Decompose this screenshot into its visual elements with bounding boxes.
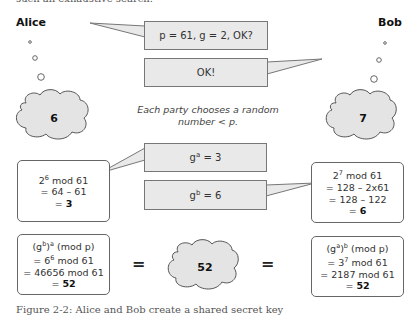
thought-bubble-icon [384,42,387,45]
note-line: number < p. [120,116,296,128]
message-gb: gb = 6 [144,180,267,210]
equals-sign: = [261,254,274,273]
message-params: p = 61, g = 2, OK? [144,21,268,50]
message-text: OK! [197,67,215,78]
alice-secret: 6 [20,100,88,136]
bob-secret: 7 [330,100,396,136]
note-line: Each party chooses a random [120,104,296,116]
bob-calculation: 27 mod 61 = 128 – 2x61 = 128 – 122 = 6 [311,162,404,223]
message-ok: OK! [144,58,268,87]
thought-bubble-icon [38,74,45,81]
speech-pointer-bob [267,59,322,74]
thought-bubble-icon [33,56,38,61]
thought-bubble-icon [377,58,382,63]
message-text: ga = 3 [190,151,222,163]
speech-pointer-alice [90,23,145,37]
message-text: gb = 6 [190,189,222,201]
message-ga: ga = 3 [144,143,267,172]
equals-sign: = [132,254,145,273]
thought-bubble-icon [371,76,378,83]
random-number-note: Each party chooses a random number < p. [120,104,296,128]
alice-calculation: 26 mod 61 = 64 – 61 = 3 [17,160,110,222]
thought-bubble-icon [29,41,32,44]
alice-final-calculation: (gb)a (mod p) = 66 mod 61 = 46656 mod 61… [17,234,110,295]
speech-pointer-gb [266,183,315,196]
participant-alice: Alice [16,16,46,29]
message-text: p = 61, g = 2, OK? [159,30,253,41]
shared-secret: 52 [172,248,238,286]
figure-caption: Figure 2-2: Alice and Bob create a share… [16,304,283,315]
bob-final-calculation: (ga)b (mod p) = 37 mod 61 = 2187 mod 61 … [311,236,404,297]
participant-bob: Bob [378,16,402,29]
